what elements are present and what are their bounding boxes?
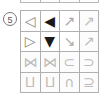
clipped-cell	[20, 0, 40, 3]
cross-x-left-symbol-icon: ⨿	[45, 75, 55, 89]
superset-symbol-icon: ⊃	[83, 55, 95, 69]
intersection-symbol-icon: ∩	[64, 75, 74, 89]
subset-symbol-icon: ⊂	[63, 55, 75, 69]
symbol-cell[interactable]: ↗	[80, 11, 100, 32]
symbol-cell[interactable]: ⊂	[60, 52, 80, 73]
symbol-grid: ◁◀↗↗▷▼↘↗⋈⋈⊂⊃⨿⨿∩⊇	[20, 10, 99, 93]
symbol-cell[interactable]: ∩	[60, 73, 80, 94]
triangle-down-filled-icon: ▼	[44, 34, 55, 48]
triangle-left-filled-icon: ◀	[44, 14, 55, 28]
cross-x-right-symbol-icon: ⨿	[25, 75, 35, 89]
clipped-cell	[40, 0, 60, 3]
symbol-cell[interactable]: ⋈	[21, 52, 41, 73]
symbol-cell[interactable]: ↗	[60, 11, 80, 32]
symbol-cell[interactable]: ⨿	[21, 73, 41, 94]
symbol-cell[interactable]: ⋈	[41, 52, 61, 73]
arrow-up-right-thin-icon: ↗	[63, 14, 75, 28]
symbol-cell[interactable]: ◁	[21, 11, 41, 32]
superset-or-equal-symbol-icon: ⊇	[83, 75, 95, 89]
triangle-right-outline-icon: ▷	[25, 34, 36, 48]
symbol-cell[interactable]: ⨿	[41, 73, 61, 94]
symbol-palette-panel: 5 ◁◀↗↗▷▼↘↗⋈⋈⊂⊃⨿⨿∩⊇	[0, 0, 99, 93]
symbol-cell[interactable]: ⊃	[80, 52, 100, 73]
symbol-cell[interactable]: ↗	[80, 32, 100, 53]
clipped-cell	[59, 0, 79, 3]
clipped-cell	[79, 0, 100, 3]
arrow-up-right-thin-alt-icon: ↗	[83, 14, 95, 28]
symbol-cell[interactable]: ▷	[21, 32, 41, 53]
arrow-down-left-thin-icon: ↘	[63, 34, 75, 48]
symbol-cell[interactable]: ◀	[41, 11, 61, 32]
clipped-top-row	[20, 0, 99, 3]
triangle-left-outline-icon: ◁	[25, 14, 36, 28]
circled-row-number: 5	[3, 12, 17, 26]
bowtie-x-symbol-alt-icon: ⋈	[43, 55, 57, 69]
symbol-cell[interactable]: ↘	[60, 32, 80, 53]
arrow-up-right-thin-alt2-icon: ↗	[83, 34, 95, 48]
symbol-cell[interactable]: ⊇	[80, 73, 100, 94]
bowtie-x-symbol-icon: ⋈	[23, 55, 37, 69]
symbol-cell[interactable]: ▼	[41, 32, 61, 53]
